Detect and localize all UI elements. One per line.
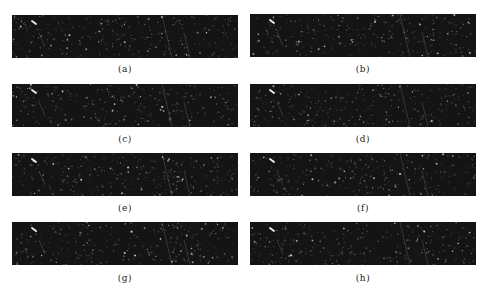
noise-speck — [38, 37, 39, 39]
bright-speck — [146, 172, 147, 173]
noise-speck — [51, 236, 52, 238]
noise-speck — [97, 121, 98, 122]
bright-speck — [384, 160, 385, 161]
bright-speck — [30, 236, 31, 237]
noise-speck — [291, 96, 292, 98]
noise-speck — [380, 57, 381, 58]
noise-speck — [67, 261, 68, 262]
bright-speck — [180, 250, 182, 252]
noise-speck — [186, 93, 187, 94]
noise-speck — [421, 227, 422, 228]
noise-speck — [451, 165, 453, 166]
noise-speck — [175, 105, 177, 106]
noise-speck — [95, 113, 96, 114]
bright-speck — [422, 230, 423, 231]
noise-speck — [467, 230, 468, 231]
noise-speck — [337, 29, 339, 30]
noise-speck — [327, 112, 328, 114]
noise-speck — [409, 23, 411, 25]
bright-speck — [85, 48, 87, 50]
noise-speck — [124, 34, 125, 35]
noise-speck — [71, 119, 73, 121]
noise-speck — [218, 87, 219, 88]
bright-speck — [189, 120, 191, 122]
bright-speck — [57, 124, 59, 126]
noise-speck — [225, 57, 226, 58]
noise-speck — [151, 252, 152, 254]
noise-speck — [184, 229, 186, 231]
noise-speck — [432, 15, 433, 16]
noise-speck — [467, 245, 468, 247]
noise-speck — [236, 234, 237, 235]
noise-speck — [441, 110, 442, 112]
noise-speck — [311, 101, 312, 103]
noise-speck — [255, 124, 256, 125]
noise-speck — [131, 38, 133, 39]
noise-speck — [303, 173, 304, 174]
noise-speck — [468, 18, 469, 19]
noise-speck — [176, 226, 177, 227]
noise-speck — [455, 49, 456, 51]
noise-speck — [148, 115, 149, 116]
bright-speck — [257, 177, 259, 179]
noise-speck — [132, 94, 134, 95]
noise-speck — [186, 85, 187, 86]
bright-speck — [427, 36, 428, 37]
noise-speck — [357, 36, 358, 38]
noise-speck — [394, 236, 395, 237]
noise-speck — [331, 120, 333, 121]
noise-speck — [315, 264, 317, 265]
bright-speck — [255, 116, 256, 117]
noise-speck — [353, 264, 354, 265]
noise-speck — [278, 118, 280, 119]
noise-speck — [114, 125, 115, 126]
noise-speck — [230, 93, 231, 94]
noise-speck — [104, 126, 105, 127]
noise-speck — [90, 16, 91, 17]
noise-speck — [211, 233, 212, 235]
noise-speck — [58, 253, 59, 255]
bright-speck — [389, 189, 390, 190]
noise-speck — [236, 104, 237, 105]
noise-speck — [75, 253, 76, 254]
bright-speck — [34, 193, 35, 194]
noise-speck — [273, 106, 275, 107]
noise-speck — [193, 99, 195, 100]
bright-speck — [430, 39, 432, 41]
noise-speck — [234, 28, 235, 29]
bright-speck — [144, 227, 146, 229]
noise-speck — [65, 166, 66, 167]
noise-speck — [259, 246, 261, 247]
noise-speck — [396, 264, 397, 265]
noise-speck — [25, 107, 27, 108]
noise-speck — [182, 248, 183, 249]
noise-speck — [271, 184, 272, 186]
noise-speck — [311, 47, 313, 48]
noise-speck — [69, 24, 70, 25]
noise-speck — [339, 98, 341, 99]
noise-speck — [343, 234, 344, 236]
bright-speck — [161, 106, 163, 108]
bright-speck — [469, 232, 470, 233]
bright-speck — [374, 21, 376, 23]
noise-speck — [155, 168, 156, 169]
noise-speck — [107, 241, 108, 242]
noise-speck — [407, 226, 408, 227]
bright-speck — [437, 258, 439, 260]
noise-speck — [349, 260, 351, 261]
bright-speck — [101, 23, 103, 25]
noise-speck — [180, 23, 181, 24]
noise-speck — [197, 244, 198, 245]
noise-speck — [358, 190, 360, 192]
bright-speck — [174, 51, 175, 52]
bright-speck — [191, 246, 192, 247]
noise-speck — [219, 179, 220, 180]
noise-speck — [270, 25, 272, 26]
bright-speck — [206, 32, 208, 34]
noise-speck — [204, 39, 205, 40]
noise-speck — [29, 50, 30, 51]
noise-speck — [54, 17, 55, 18]
noise-speck — [102, 89, 103, 91]
noise-speck — [153, 46, 154, 47]
noise-speck — [285, 40, 287, 41]
